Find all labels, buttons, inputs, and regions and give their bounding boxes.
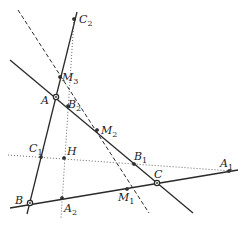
label-C: C: [154, 168, 163, 181]
label-B1-subscript: 1: [142, 156, 147, 165]
label-B1-base: B: [133, 150, 142, 163]
label-C1-subscript: 1: [37, 148, 42, 157]
label-M3-subscript: 3: [73, 77, 78, 86]
label-B2: B2: [67, 98, 81, 113]
point-A-center: [55, 96, 57, 98]
point-C-center: [156, 182, 158, 184]
line-median-dashed: [18, 10, 149, 213]
label-M2: M2: [100, 124, 117, 139]
label-M1-subscript: 1: [129, 197, 134, 206]
label-A2-subscript: 2: [72, 208, 77, 217]
label-H: H: [66, 145, 77, 158]
label-M3-base: M: [61, 71, 74, 84]
label-A1-subscript: 1: [228, 163, 233, 172]
label-B-base: B: [14, 194, 23, 207]
label-B: B: [14, 194, 23, 207]
label-A2-base: A: [63, 202, 72, 215]
label-A: A: [40, 94, 49, 107]
label-B1: B1: [133, 150, 147, 165]
lines-layer: [8, 10, 238, 218]
point-A2: [60, 196, 63, 199]
geometry-diagram: ABCA1A2B1B2C1C2HM1M2M3: [0, 0, 244, 228]
label-M1-base: M: [117, 191, 130, 204]
points-layer: [27, 17, 230, 205]
label-A2: A2: [63, 202, 77, 217]
labels-layer: ABCA1A2B1B2C1C2HM1M2M3: [14, 13, 233, 217]
label-A-base: A: [40, 94, 49, 107]
label-A1: A1: [219, 157, 233, 172]
label-M2-base: M: [100, 124, 113, 137]
point-C2: [72, 17, 75, 20]
line-AB: [27, 12, 77, 214]
label-B2-base: B: [67, 98, 76, 111]
label-C2: C2: [79, 13, 93, 28]
point-M2: [95, 128, 98, 131]
label-A1-base: A: [219, 157, 228, 170]
point-B-center: [29, 202, 31, 204]
label-C2-subscript: 2: [87, 19, 92, 28]
label-H-base: H: [66, 145, 77, 158]
label-M1: M1: [117, 191, 134, 206]
label-M3: M3: [61, 71, 78, 86]
label-B2-subscript: 2: [76, 104, 81, 113]
label-C1: C1: [29, 142, 43, 157]
label-M2-subscript: 2: [112, 130, 117, 139]
label-C-base: C: [154, 168, 163, 181]
point-H: [62, 156, 65, 159]
